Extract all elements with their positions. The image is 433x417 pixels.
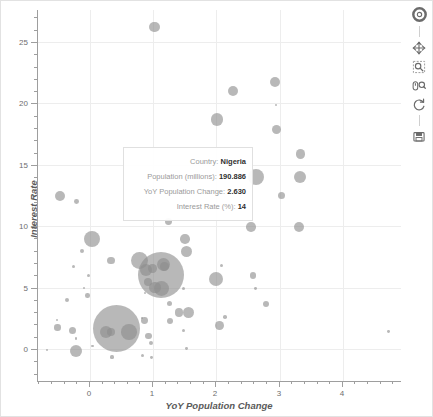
gridline-horizontal (38, 288, 401, 289)
tooltip-label: Population (millions): (147, 172, 217, 181)
data-point-bubble[interactable] (145, 333, 151, 339)
data-point-bubble[interactable] (148, 264, 156, 272)
data-point-bubble[interactable] (185, 347, 188, 350)
y-tick-minor (34, 128, 37, 129)
data-point-bubble[interactable] (294, 171, 306, 183)
y-tick-minor (34, 300, 37, 301)
data-point-bubble[interactable] (272, 125, 281, 134)
data-point-bubble[interactable] (55, 191, 65, 201)
data-point-bubble[interactable] (74, 199, 79, 204)
y-tick-minor (34, 324, 37, 325)
data-point-bubble[interactable] (69, 327, 76, 334)
data-point-bubble[interactable] (144, 292, 146, 294)
y-tick-minor (34, 177, 37, 178)
tooltip-row: Population (millions): 190.886 (128, 169, 246, 184)
data-point-bubble[interactable] (263, 301, 269, 307)
data-point-bubble[interactable] (54, 324, 60, 330)
data-point-bubble[interactable] (228, 86, 238, 96)
data-point-bubble[interactable] (141, 317, 143, 319)
gridline-horizontal (38, 226, 401, 227)
x-tick-minor (317, 381, 318, 384)
x-tick-minor (177, 381, 178, 384)
y-tick-minor (34, 238, 37, 239)
y-tick-minor (34, 361, 37, 362)
data-point-bubble[interactable] (387, 330, 390, 333)
data-point-bubble[interactable] (75, 337, 78, 340)
x-tick-major (89, 381, 90, 387)
data-point-bubble[interactable] (56, 319, 58, 321)
x-tick-minor (367, 381, 368, 384)
data-point-bubble[interactable] (182, 329, 186, 333)
data-point-bubble[interactable] (270, 77, 280, 87)
y-tick-minor (34, 251, 37, 252)
save-tool-icon[interactable] (410, 127, 428, 146)
gridline-horizontal (38, 42, 401, 43)
tooltip-row: YoY Population Change: 2.630 (128, 184, 246, 199)
y-tick-minor (34, 140, 37, 141)
data-point-bubble[interactable] (110, 355, 113, 358)
data-point-bubble[interactable] (223, 315, 227, 319)
y-tick-label: 20 (19, 99, 28, 108)
toolbar-divider (419, 26, 420, 37)
y-tick-major (31, 103, 37, 104)
wheel-zoom-tool-icon[interactable] (410, 76, 428, 95)
data-point-bubble[interactable] (211, 113, 223, 125)
y-tick-minor (34, 116, 37, 117)
data-point-bubble[interactable] (296, 149, 306, 159)
data-point-bubble[interactable] (70, 345, 82, 357)
data-point-bubble[interactable] (65, 298, 70, 303)
y-tick-label: 0 (24, 345, 28, 354)
data-point-bubble[interactable] (278, 192, 285, 199)
x-tick-minor (241, 381, 242, 384)
data-point-bubble[interactable] (85, 293, 89, 297)
tooltip-row: Country: Nigeria (128, 154, 246, 169)
data-point-bubble[interactable] (80, 249, 84, 253)
data-point-bubble[interactable] (91, 345, 93, 347)
y-tick-label: 15 (19, 161, 28, 170)
y-tick-minor (34, 67, 37, 68)
data-point-bubble[interactable] (121, 324, 137, 340)
data-point-bubble[interactable] (220, 264, 224, 268)
tooltip-value: 2.630 (227, 187, 246, 196)
gridline-horizontal (38, 349, 401, 350)
x-tick-major (152, 381, 153, 387)
data-point-bubble[interactable] (141, 354, 144, 357)
data-point-bubble[interactable] (167, 301, 172, 306)
plot-toolbar[interactable] (408, 5, 430, 146)
y-tick-label: 5 (24, 284, 28, 293)
data-point-bubble[interactable] (294, 222, 304, 232)
data-point-bubble[interactable] (72, 265, 75, 268)
box-zoom-tool-icon[interactable] (410, 57, 428, 76)
data-point-bubble[interactable] (107, 257, 115, 265)
data-point-bubble[interactable] (183, 307, 194, 318)
y-tick-minor (34, 30, 37, 31)
data-point-bubble[interactable] (254, 287, 257, 290)
pan-tool-icon[interactable] (410, 38, 428, 57)
hover-tooltip: Country: Nigeria Population (millions): … (123, 147, 253, 221)
x-tick-label: 1 (150, 389, 154, 398)
x-tick-minor (127, 381, 128, 384)
x-tick-major (279, 381, 280, 387)
data-point-bubble[interactable] (149, 22, 159, 32)
tooltip-label: Interest Rate (%): (177, 202, 236, 211)
data-point-bubble[interactable] (167, 318, 173, 324)
y-tick-minor (34, 263, 37, 264)
data-point-bubble[interactable] (46, 349, 48, 351)
data-point-bubble[interactable] (180, 234, 190, 244)
data-point-bubble[interactable] (215, 321, 224, 330)
x-tick-minor (51, 381, 52, 384)
y-tick-major (31, 349, 37, 350)
reset-tool-icon[interactable] (410, 95, 428, 114)
data-point-bubble[interactable] (209, 272, 223, 286)
y-tick-minor (34, 312, 37, 313)
data-point-bubble[interactable] (250, 272, 257, 279)
data-point-bubble[interactable] (149, 282, 160, 293)
x-tick-minor (266, 381, 267, 384)
data-point-bubble[interactable] (182, 287, 185, 290)
data-point-bubble[interactable] (84, 231, 100, 247)
data-point-bubble[interactable] (150, 356, 153, 359)
x-tick-minor (190, 381, 191, 384)
y-tick-minor (34, 214, 37, 215)
data-point-bubble[interactable] (246, 222, 256, 232)
data-point-bubble[interactable] (181, 246, 192, 257)
